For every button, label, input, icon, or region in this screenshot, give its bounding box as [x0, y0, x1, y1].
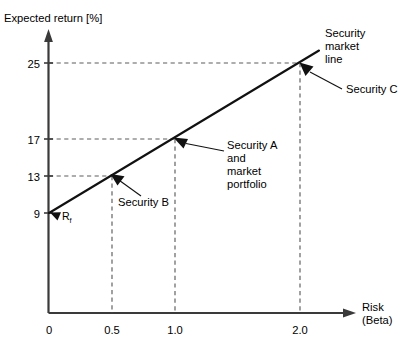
rf-annotation-group: R f	[50, 210, 73, 225]
sml-label-line1: Security	[325, 27, 366, 39]
chart-canvas: Expected return [%] 25 17 13 9 0 0.5 1.0…	[0, 0, 415, 344]
security-market-line-figure: Expected return [%] 25 17 13 9 0 0.5 1.0…	[0, 0, 415, 344]
horizontal-guides-group	[49, 63, 300, 176]
ytick-label-17: 17	[28, 134, 40, 146]
x-axis-title-line2: (Beta)	[362, 314, 393, 326]
security-c-arrow-icon	[300, 63, 314, 77]
vertical-guides-group	[112, 63, 300, 313]
sml-plot-line	[49, 51, 319, 214]
xtick-label-2-0: 2.0	[292, 324, 308, 336]
ytick-label-9: 9	[34, 208, 40, 220]
security-market-line-series	[49, 51, 319, 214]
sml-label-line3: line	[325, 53, 342, 65]
security-c-annotation-group: Security C	[300, 63, 398, 96]
security-c-label: Security C	[346, 83, 398, 95]
security-a-label-line4: portfolio	[227, 178, 267, 190]
rf-arrow-icon	[50, 212, 61, 220]
security-a-label-line1: Security A	[227, 139, 278, 151]
security-b-annotation-group: Security B	[111, 174, 169, 208]
xtick-label-0: 0	[46, 324, 52, 336]
sml-annotation-group: Security market line	[325, 27, 366, 65]
security-b-leader-line	[120, 181, 142, 197]
x-axis-arrow-icon	[343, 309, 356, 318]
security-a-leader-line	[186, 144, 224, 152]
security-a-label-line3: market	[227, 165, 262, 177]
security-b-label: Security B	[118, 196, 169, 208]
security-a-label-line2: and	[227, 152, 246, 164]
x-axis-title-line1: Risk	[362, 301, 384, 313]
y-axis-title: Expected return [%]	[4, 12, 102, 24]
xtick-label-0-5: 0.5	[104, 324, 120, 336]
y-axis-arrow-icon	[44, 29, 53, 42]
security-a-annotation-group: Security A and market portfolio	[174, 138, 278, 191]
security-c-leader-line	[310, 72, 342, 89]
rf-label-subscript: f	[70, 216, 73, 225]
sml-label-line2: market	[325, 40, 360, 52]
axes-group	[44, 29, 356, 317]
security-a-arrow-icon	[174, 138, 189, 149]
security-b-arrow-icon	[111, 174, 125, 186]
ytick-label-13: 13	[28, 171, 40, 183]
xtick-label-1-0: 1.0	[167, 324, 183, 336]
ytick-label-25: 25	[28, 58, 40, 70]
